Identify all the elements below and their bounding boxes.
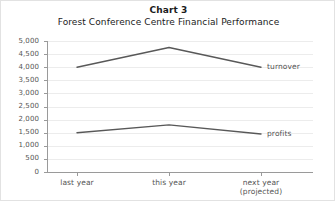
y-axis-label: 5,000 xyxy=(0,38,39,45)
y-axis-tick xyxy=(44,54,48,55)
x-axis-label: next year(projected) xyxy=(216,178,306,196)
x-axis-label-line: (projected) xyxy=(216,187,306,196)
y-axis-tick xyxy=(44,107,48,108)
y-axis-label: 500 xyxy=(0,155,39,162)
series-line-profits xyxy=(77,125,261,134)
y-axis-tick xyxy=(44,159,48,160)
y-axis-label: 4,500 xyxy=(0,51,39,58)
y-axis-label: 2,500 xyxy=(0,103,39,110)
y-axis-tick xyxy=(44,120,48,121)
chart-title: Chart 3 xyxy=(1,4,335,16)
x-axis-label-line: this year xyxy=(124,178,214,187)
x-axis-label-line: last year xyxy=(32,178,122,187)
y-axis-tick xyxy=(44,93,48,94)
x-axis-label-line: next year xyxy=(216,178,306,187)
y-axis-tick xyxy=(44,41,48,42)
y-axis-label: 0 xyxy=(0,169,39,176)
x-axis-tick xyxy=(77,172,78,176)
y-axis-label: 3,500 xyxy=(0,77,39,84)
series-label-profits: profits xyxy=(267,130,292,138)
x-axis-label: this year xyxy=(124,178,214,187)
y-axis-label: 3,000 xyxy=(0,90,39,97)
y-axis-tick xyxy=(44,172,48,173)
y-axis-tick xyxy=(44,67,48,68)
y-axis-tick xyxy=(44,146,48,147)
y-axis-label: 1,000 xyxy=(0,142,39,149)
chart-title-block: Chart 3 Forest Conference Centre Financi… xyxy=(1,4,335,29)
y-axis-label: 1,500 xyxy=(0,129,39,136)
chart-figure: Chart 3 Forest Conference Centre Financi… xyxy=(0,0,335,201)
x-axis-label: last year xyxy=(32,178,122,187)
x-axis-tick xyxy=(261,172,262,176)
y-axis-label: 2,000 xyxy=(0,116,39,123)
series-label-turnover: turnover xyxy=(267,63,300,71)
series-lines xyxy=(47,41,313,173)
chart-subtitle: Forest Conference Centre Financial Perfo… xyxy=(1,16,335,29)
y-axis-label: 4,000 xyxy=(0,64,39,71)
y-axis-tick xyxy=(44,80,48,81)
x-axis-tick xyxy=(169,172,170,176)
series-line-turnover xyxy=(77,48,261,68)
y-axis-tick xyxy=(44,133,48,134)
